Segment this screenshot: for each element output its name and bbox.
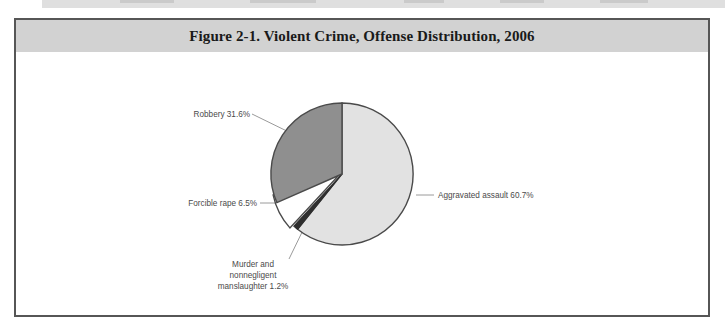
- pie-label-robbery: Robbery 31.6%: [194, 110, 250, 119]
- partial-table-row-above: [0, 0, 725, 10]
- partial-row-tick: [600, 0, 648, 3]
- pie-label-murder-line-3: manslaughter 1.2%: [218, 282, 289, 291]
- pie-label-aggravated-assault: Aggravated assault 60.7%: [438, 191, 534, 200]
- figure-title: Figure 2-1. Violent Crime, Offense Distr…: [189, 28, 534, 45]
- figure-container: Figure 2-1. Violent Crime, Offense Distr…: [14, 18, 710, 317]
- pie-slices: [271, 103, 413, 245]
- figure-body: Robbery 31.6% Aggravated assault 60.7% F…: [16, 52, 708, 315]
- pie-label-murder-line-1: Murder and: [232, 260, 274, 269]
- pie-chart: Robbery 31.6% Aggravated assault 60.7% F…: [16, 52, 708, 315]
- pie-chart-svg: Robbery 31.6% Aggravated assault 60.7% F…: [16, 52, 708, 315]
- partial-row-tick: [404, 0, 444, 3]
- partial-row-tick: [250, 0, 316, 3]
- pie-label-murder-line-2: nonnegligent: [230, 271, 278, 280]
- pie-label-murder-nonnegligent-manslaughter: Murder and nonnegligent manslaughter 1.2…: [218, 260, 289, 291]
- partial-row-tick: [500, 0, 544, 3]
- figure-header-band: Figure 2-1. Violent Crime, Offense Distr…: [16, 20, 708, 54]
- partial-row-tick: [120, 0, 174, 3]
- pie-label-forcible-rape: Forcible rape 6.5%: [188, 199, 257, 208]
